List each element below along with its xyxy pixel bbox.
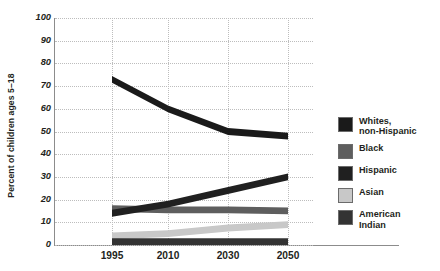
y-tick-label: 10 <box>25 218 51 227</box>
legend-label: American Indian <box>359 209 400 230</box>
y-tick-label: 20 <box>25 195 51 204</box>
series-band <box>112 221 288 239</box>
x-tick-label: 2050 <box>258 251 318 261</box>
legend-item: Whites, non-Hispanic <box>338 116 438 137</box>
x-tick-label: 2030 <box>198 251 258 261</box>
y-tick-label: 100 <box>25 13 51 22</box>
series-band <box>112 238 288 245</box>
legend-swatch <box>338 166 353 181</box>
legend-label: Asian <box>359 187 384 197</box>
series-band <box>112 76 288 140</box>
y-tick-label: 30 <box>25 172 51 181</box>
y-tick-label: 70 <box>25 81 51 90</box>
legend-label: Black <box>359 143 383 153</box>
legend-label: Whites, non-Hispanic <box>359 116 417 137</box>
legend-item: Hispanic <box>338 165 438 181</box>
legend-swatch <box>338 144 353 159</box>
legend-swatch <box>338 117 353 132</box>
chart-figure: Percent of children ages 5–18 0102030405… <box>0 0 440 271</box>
legend-swatch <box>338 188 353 203</box>
legend-swatch <box>338 210 353 225</box>
y-tick-label: 90 <box>25 36 51 45</box>
y-tick-label: 80 <box>25 59 51 68</box>
y-tick-label: 40 <box>25 150 51 159</box>
y-tick-label: 50 <box>25 127 51 136</box>
legend-item: American Indian <box>338 209 438 230</box>
x-tick-label: 2010 <box>138 251 198 261</box>
y-tick-label: 60 <box>25 104 51 113</box>
chart-legend: Whites, non-HispanicBlackHispanicAsianAm… <box>338 116 438 237</box>
y-axis-title: Percent of children ages 5–18 <box>0 0 22 271</box>
x-tick-label: 1995 <box>82 251 142 261</box>
legend-label: Hispanic <box>359 165 397 175</box>
gridline-horizontal <box>55 245 313 246</box>
legend-item: Black <box>338 143 438 159</box>
legend-item: Asian <box>338 187 438 203</box>
y-tick-label: 0 <box>25 240 51 249</box>
plot-area: 0102030405060708090100 1995201020302050 <box>55 18 313 245</box>
series-bands <box>55 18 313 245</box>
